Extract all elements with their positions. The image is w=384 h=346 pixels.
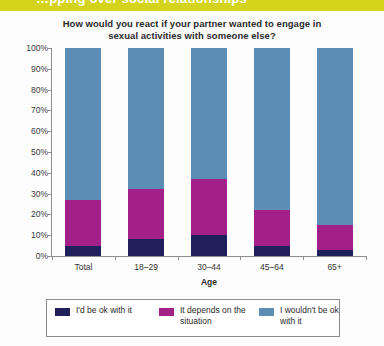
legend-swatch — [159, 308, 174, 316]
y-axis-tick-label: 90% — [31, 64, 48, 74]
x-axis-tick-label: 18–29 — [116, 262, 176, 272]
bar-segment — [65, 200, 101, 246]
bar-segment — [317, 48, 353, 225]
y-axis-tick-label: 30% — [31, 189, 48, 199]
legend-label: It depends on the situation — [180, 305, 258, 327]
bar-segment — [317, 250, 353, 256]
legend-swatch — [55, 308, 70, 316]
y-axis-tick-label: 100% — [26, 43, 48, 53]
x-axis-tick-mark — [240, 256, 241, 260]
chart-title-line1: How would you react if your partner want… — [24, 18, 360, 30]
y-axis-tick-label: 70% — [31, 105, 48, 115]
bar-segment — [191, 48, 227, 179]
x-axis-tick-mark — [303, 256, 304, 260]
chart-legend: I'd be ok with itIt depends on the situa… — [46, 299, 340, 337]
bar-segment — [128, 48, 164, 189]
chart-title: How would you react if your partner want… — [24, 18, 360, 42]
x-axis-title: Age — [52, 277, 366, 287]
x-axis-tick-label: 65+ — [305, 262, 365, 272]
chart-figure: How would you react if your partner want… — [0, 11, 384, 346]
y-axis-tick-label: 50% — [31, 147, 48, 157]
legend-label: I'd be ok with it — [76, 305, 162, 316]
y-axis-tick-label: 0% — [36, 251, 48, 261]
bar-stack — [191, 48, 227, 256]
bar-segment — [254, 246, 290, 256]
x-axis-tick-mark — [52, 256, 53, 260]
x-axis-line — [51, 256, 367, 257]
bar-segment — [191, 179, 227, 235]
x-axis-tick-label: Total — [53, 262, 113, 272]
x-axis-tick-label: 30–44 — [179, 262, 239, 272]
x-axis-tick-label: 45–64 — [242, 262, 302, 272]
x-axis-tick-mark — [178, 256, 179, 260]
bar-stack — [254, 48, 290, 256]
y-axis-tick-label: 60% — [31, 126, 48, 136]
bar-segment — [191, 235, 227, 256]
bar-segment — [128, 239, 164, 256]
bar-segment — [65, 48, 101, 200]
legend-label: I wouldn't be ok with it — [280, 305, 346, 327]
x-axis-tick-mark — [366, 256, 367, 260]
bar-stack — [317, 48, 353, 256]
bar-segment — [65, 246, 101, 256]
x-axis-tick-mark — [115, 256, 116, 260]
banner-text: …pping over social relationships — [36, 0, 247, 6]
bar-segment — [254, 210, 290, 245]
bar-segment — [317, 225, 353, 250]
page-banner: …pping over social relationships — [0, 0, 384, 11]
legend-swatch — [259, 308, 274, 316]
bar-segment — [254, 48, 290, 210]
y-axis-tick-label: 80% — [31, 85, 48, 95]
bar-stack — [128, 48, 164, 256]
y-axis-tick-label: 40% — [31, 168, 48, 178]
y-axis-tick-label: 10% — [31, 230, 48, 240]
bar-stack — [65, 48, 101, 256]
plot-area — [52, 48, 366, 256]
bar-segment — [128, 189, 164, 239]
y-axis-tick-label: 20% — [31, 209, 48, 219]
chart-title-line2: sexual activities with someone else? — [24, 30, 360, 42]
